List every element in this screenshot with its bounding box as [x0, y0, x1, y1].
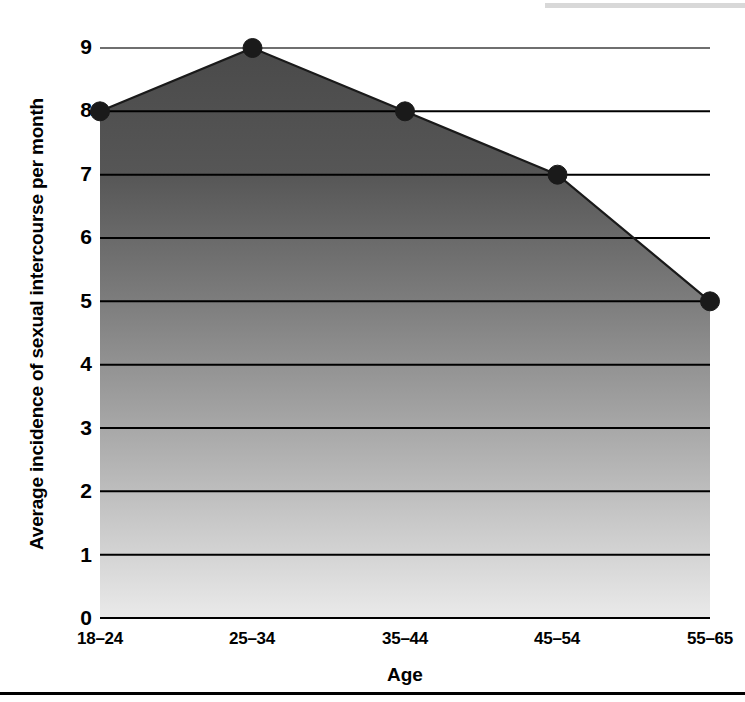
- chart-figure: Average incidence of sexual intercourse …: [0, 0, 745, 702]
- x-tick-label-2: 35–44: [330, 630, 480, 647]
- bottom-rule: [0, 692, 745, 695]
- x-tick-label-4: 55–65: [635, 630, 745, 647]
- x-tick-label-0: 18–24: [25, 630, 175, 647]
- area-fill: [100, 48, 710, 618]
- x-tick-label-1: 25–34: [177, 630, 327, 647]
- plot-area: [0, 0, 745, 702]
- data-point-marker: [701, 292, 720, 311]
- data-point-marker: [243, 39, 262, 58]
- x-axis-label: Age: [100, 664, 710, 686]
- data-point-marker: [91, 102, 110, 121]
- data-point-marker: [396, 102, 415, 121]
- data-point-marker: [548, 165, 567, 184]
- x-tick-label-3: 45–54: [482, 630, 632, 647]
- scan-artifact: [545, 3, 745, 8]
